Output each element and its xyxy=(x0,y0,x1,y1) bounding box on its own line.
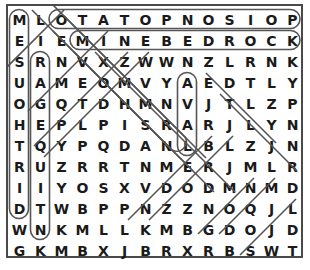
grid-cell-r7-c4: P xyxy=(72,136,93,157)
grid-cell-r8-c2: U xyxy=(30,157,51,178)
grid-cell-r1-c3: O xyxy=(51,10,72,31)
grid-cell-r7-c13: J xyxy=(261,136,282,157)
grid-cell-r1-c7: O xyxy=(135,10,156,31)
grid-cell-r4-c5: O xyxy=(93,73,114,94)
grid-cell-r11-c2: N xyxy=(30,220,51,241)
grid-cell-r9-c1: I xyxy=(9,178,30,199)
grid-cell-r1-c12: I xyxy=(240,10,261,31)
grid-cell-r7-c5: Q xyxy=(93,136,114,157)
grid-cell-r6-c3: P xyxy=(51,115,72,136)
grid-cell-r10-c2: T xyxy=(30,199,51,220)
grid-cell-r8-c5: R xyxy=(93,157,114,178)
grid-cell-r4-c8: Y xyxy=(156,73,177,94)
grid-cell-r12-c5: X xyxy=(93,241,114,262)
grid-cell-r11-c9: B xyxy=(177,220,198,241)
grid-cell-r8-c1: R xyxy=(9,157,30,178)
grid-cell-r1-c2: L xyxy=(30,10,51,31)
grid-cell-r1-c4: T xyxy=(72,10,93,31)
grid-cell-r8-c7: N xyxy=(135,157,156,178)
grid-cell-r8-c11: J xyxy=(219,157,240,178)
grid-cell-r4-c13: L xyxy=(261,73,282,94)
grid-cell-r5-c2: G xyxy=(30,94,51,115)
grid-cell-r11-c5: L xyxy=(93,220,114,241)
grid-cell-r1-c5: A xyxy=(93,10,114,31)
grid-cell-r3-c13: N xyxy=(261,52,282,73)
word-search-puzzle: MLOTATOPNOSIOPEIEMINEBEDROCKSRNVXZWWNZLR… xyxy=(0,0,310,270)
grid-cell-r7-c10: B xyxy=(198,136,219,157)
grid-cell-r2-c11: R xyxy=(219,31,240,52)
grid-cell-r5-c13: Z xyxy=(261,94,282,115)
grid-cell-r5-c7: M xyxy=(135,94,156,115)
grid-cell-r4-c4: E xyxy=(72,73,93,94)
grid-cell-r9-c11: M xyxy=(219,178,240,199)
grid-cell-r6-c6: I xyxy=(114,115,135,136)
grid-cell-r4-c11: D xyxy=(219,73,240,94)
grid-cell-r5-c10: J xyxy=(198,94,219,115)
grid-cell-r5-c9: V xyxy=(177,94,198,115)
grid-cell-r7-c2: Q xyxy=(30,136,51,157)
grid-cell-r9-c9: O xyxy=(177,178,198,199)
grid-cell-r1-c8: P xyxy=(156,10,177,31)
grid-cell-r11-c7: K xyxy=(135,220,156,241)
grid-cell-r12-c11: B xyxy=(219,241,240,262)
grid-cell-r12-c14: T xyxy=(282,241,303,262)
grid-cell-r4-c12: T xyxy=(240,73,261,94)
grid-cell-r2-c10: D xyxy=(198,31,219,52)
grid-cell-r12-c2: K xyxy=(30,241,51,262)
grid-cell-r9-c6: X xyxy=(114,178,135,199)
grid-cell-r9-c8: D xyxy=(156,178,177,199)
grid-cell-r4-c7: V xyxy=(135,73,156,94)
grid-cell-r10-c13: J xyxy=(261,199,282,220)
grid-cell-r9-c4: O xyxy=(72,178,93,199)
grid-cell-r3-c3: N xyxy=(51,52,72,73)
grid-cell-r7-c6: D xyxy=(114,136,135,157)
grid-cell-r5-c8: N xyxy=(156,94,177,115)
grid-cell-r8-c10: R xyxy=(198,157,219,178)
grid-cell-r9-c14: D xyxy=(282,178,303,199)
grid-cell-r8-c9: E xyxy=(177,157,198,178)
grid-cell-r1-c13: O xyxy=(261,10,282,31)
grid-cell-r2-c8: B xyxy=(156,31,177,52)
grid-cell-r2-c6: N xyxy=(114,31,135,52)
grid-cell-r7-c7: A xyxy=(135,136,156,157)
grid-cell-r2-c9: E xyxy=(177,31,198,52)
grid-cell-r3-c7: W xyxy=(135,52,156,73)
grid-cell-r9-c2: I xyxy=(30,178,51,199)
grid-cell-r12-c12: S xyxy=(240,241,261,262)
grid-cell-r11-c13: J xyxy=(261,220,282,241)
grid-cell-r3-c6: Z xyxy=(114,52,135,73)
grid-cell-r12-c3: M xyxy=(51,241,72,262)
grid-cell-r4-c14: Y xyxy=(282,73,303,94)
grid-cell-r1-c10: O xyxy=(198,10,219,31)
grid-cell-r2-c13: C xyxy=(261,31,282,52)
grid-cell-r5-c6: H xyxy=(114,94,135,115)
grid-cell-r2-c4: M xyxy=(72,31,93,52)
grid-cell-r6-c11: J xyxy=(219,115,240,136)
grid-cell-r3-c11: L xyxy=(219,52,240,73)
grid-cell-r4-c1: U xyxy=(9,73,30,94)
grid-cell-r7-c3: Y xyxy=(51,136,72,157)
grid-cell-r9-c12: N xyxy=(240,178,261,199)
grid-cell-r3-c9: N xyxy=(177,52,198,73)
grid-cell-r10-c3: W xyxy=(51,199,72,220)
grid-cell-r6-c12: L xyxy=(240,115,261,136)
grid-cell-r6-c4: L xyxy=(72,115,93,136)
grid-cell-r4-c10: E xyxy=(198,73,219,94)
grid-cell-r4-c9: A xyxy=(177,73,198,94)
grid-cell-r11-c6: L xyxy=(114,220,135,241)
grid-cell-r2-c5: I xyxy=(93,31,114,52)
grid-cell-r2-c2: I xyxy=(30,31,51,52)
grid-cell-r11-c11: D xyxy=(219,220,240,241)
grid-cell-r3-c14: K xyxy=(282,52,303,73)
grid-cell-r1-c1: M xyxy=(9,10,30,31)
grid-cell-r9-c5: S xyxy=(93,178,114,199)
grid-cell-r2-c12: O xyxy=(240,31,261,52)
grid-cell-r10-c7: N xyxy=(135,199,156,220)
grid-cell-r12-c6: J xyxy=(114,241,135,262)
grid-cell-r4-c6: M xyxy=(114,73,135,94)
grid-cell-r10-c8: Z xyxy=(156,199,177,220)
grid-cell-r6-c2: E xyxy=(30,115,51,136)
grid-cell-r10-c4: B xyxy=(72,199,93,220)
grid-cell-r5-c14: P xyxy=(282,94,303,115)
grid-cell-r6-c8: R xyxy=(156,115,177,136)
